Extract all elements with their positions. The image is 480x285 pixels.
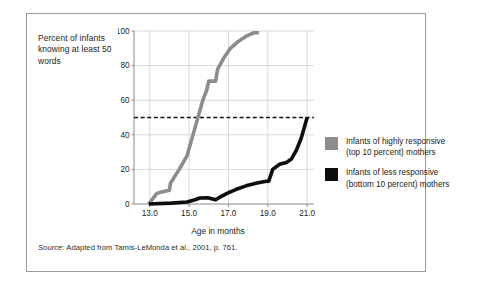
y-tick-label-20: 20 (120, 165, 130, 174)
legend-swatch-less_responsive (325, 168, 338, 181)
legend-item-highly_responsive: Infants of highly responsive (top 10 per… (325, 136, 455, 158)
figure-root: Percent of infants knowing at least 50 w… (0, 0, 480, 285)
x-tick-label-13.0: 13.0 (142, 209, 158, 218)
x-tick-label-19.0: 19.0 (260, 209, 276, 218)
legend-item-less_responsive: Infants of less responsive (bottom 10 pe… (325, 167, 455, 189)
legend-label-highly_responsive: Infants of highly responsive (top 10 per… (346, 136, 455, 158)
x-tick-label-17.0: 17.0 (220, 209, 236, 218)
y-tick-label-100: 100 (118, 27, 130, 36)
y-tick-label-60: 60 (120, 96, 130, 105)
chart-plot-area: 02040608010013.015.017.019.021.0 (118, 23, 318, 228)
series-line-highly_responsive (149, 33, 259, 204)
chart-legend: Infants of highly responsive (top 10 per… (325, 136, 455, 199)
y-tick-label-0: 0 (125, 200, 130, 209)
legend-label-less_responsive: Infants of less responsive (bottom 10 pe… (346, 167, 455, 189)
series-line-less_responsive (149, 118, 307, 205)
legend-swatch-highly_responsive (325, 137, 338, 150)
source-label: Source: (38, 243, 65, 252)
line-chart-svg: 02040608010013.015.017.019.021.0 (118, 23, 318, 228)
x-axis-title: Age in months (133, 226, 303, 236)
x-tick-label-21.0: 21.0 (299, 209, 315, 218)
y-tick-label-80: 80 (120, 61, 130, 70)
source-note: Source: Adapted from Tamis-LeMonda et al… (38, 243, 237, 252)
source-citation: Adapted from Tamis-LeMonda et al., 2001,… (65, 243, 238, 252)
y-axis-caption: Percent of infants knowing at least 50 w… (38, 33, 116, 67)
x-tick-label-15.0: 15.0 (181, 209, 197, 218)
y-tick-label-40: 40 (120, 131, 130, 140)
